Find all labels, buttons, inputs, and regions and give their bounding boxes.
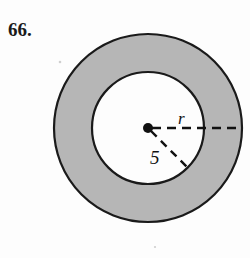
outer-radius-label: r (178, 109, 185, 128)
figure-page: 66. r 5 (0, 0, 250, 258)
center-point-dot (143, 123, 153, 133)
annulus-figure: r 5 (0, 0, 250, 258)
scan-speck-artifact (59, 61, 62, 64)
scan-speck-artifact (154, 246, 156, 248)
inner-radius-label: 5 (150, 147, 160, 168)
